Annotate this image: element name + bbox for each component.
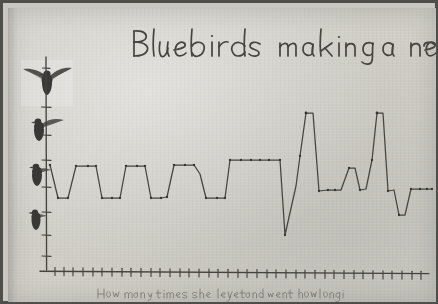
paper-sheet [8,8,436,302]
picture-frame [0,0,438,304]
y-axis [42,57,52,270]
line-chart-svg [8,8,436,302]
x-axis-caption [96,286,346,302]
x-axis-caption-lettering [96,286,346,302]
data-series-nest-trips [49,112,433,237]
x-axis [40,268,429,280]
graph-area [8,8,436,302]
